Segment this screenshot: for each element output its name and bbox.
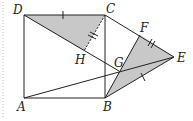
label-h: H	[74, 53, 86, 67]
label-c: C	[106, 2, 115, 16]
label-b: B	[102, 100, 112, 114]
segment-ae	[24, 57, 174, 98]
label-d: D	[12, 3, 23, 17]
label-e: E	[176, 51, 186, 65]
geometry-diagram: D C A B E F G H	[0, 0, 193, 121]
label-a: A	[16, 100, 26, 114]
label-f: F	[139, 21, 149, 35]
label-g: G	[114, 56, 124, 70]
